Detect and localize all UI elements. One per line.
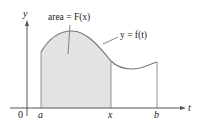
y-axis-label: y (22, 8, 28, 19)
curve-annotation-text: y = f(t) (120, 30, 147, 41)
diagram-svg: y t 0 a x b area = F(x) y = f(t) (0, 0, 200, 120)
area-annotation: area = F(x) (48, 12, 90, 23)
y-axis-arrow-icon (25, 20, 29, 26)
tick-label-x: x (107, 109, 113, 120)
area-annotation-text: area = F(x) (48, 12, 90, 23)
curve-annotation: y = f(t) (120, 30, 147, 41)
origin-label: 0 (18, 109, 23, 120)
area-function-diagram: y t 0 a x b area = F(x) y = f(t) (0, 0, 200, 120)
tick-label-a: a (38, 109, 43, 120)
t-axis-arrow-icon (180, 106, 186, 110)
curve-leader-line (103, 37, 118, 44)
tick-label-b: b (154, 109, 159, 120)
shaded-area-region (41, 31, 111, 108)
t-axis-label: t (188, 102, 191, 113)
